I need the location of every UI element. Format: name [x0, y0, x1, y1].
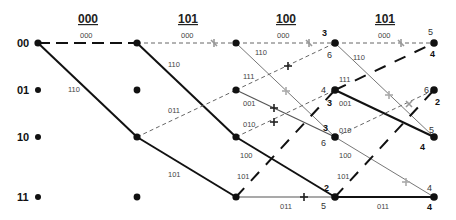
metric: 4	[321, 85, 326, 95]
node	[430, 193, 438, 201]
branch-label: 100	[339, 151, 352, 160]
metric: 6	[321, 138, 326, 148]
metric: 2	[324, 183, 329, 193]
node	[134, 194, 141, 201]
branch-label: 110	[168, 60, 180, 69]
branch-label: 101	[168, 170, 181, 179]
node	[35, 194, 41, 200]
node	[133, 133, 140, 140]
node	[430, 39, 438, 47]
node	[232, 133, 239, 140]
node	[232, 86, 239, 93]
cross-icon	[402, 178, 410, 186]
node	[331, 39, 339, 47]
metric: 4	[420, 142, 425, 152]
cross-icon	[300, 193, 308, 201]
cross-icon	[406, 101, 412, 107]
node	[35, 87, 41, 93]
branch-label: 111	[243, 72, 254, 81]
branch-label: 110	[353, 53, 365, 62]
node	[34, 39, 41, 46]
cross-icon	[270, 104, 278, 112]
branch-label: 000	[181, 31, 194, 40]
branch-label: 010	[243, 120, 256, 129]
branch-label: 011	[377, 202, 389, 211]
node	[133, 39, 140, 46]
branch-label: 110	[68, 85, 80, 94]
header-col1: 000	[78, 12, 98, 26]
metric: 3	[327, 98, 332, 108]
state-label-11: 11	[17, 191, 29, 203]
node	[134, 87, 141, 94]
cross-icon	[270, 118, 278, 126]
path-metrics: 3 6 4 3 3 6 2 5 5 4 6 2 5 4 4 4	[321, 27, 440, 212]
branch-label: 101	[337, 172, 350, 181]
node	[430, 133, 438, 141]
branch-label: 101	[237, 172, 250, 181]
metric: 4	[427, 183, 432, 193]
node	[35, 134, 41, 140]
branch-s1-00-10	[38, 43, 137, 137]
branch-label: 000	[277, 31, 290, 40]
branch-label: 011	[168, 106, 180, 115]
metric: 5	[321, 201, 326, 211]
branch-label: 001	[339, 99, 352, 108]
state-label-01: 01	[17, 84, 29, 96]
header-col3: 100	[276, 12, 296, 26]
node	[232, 193, 239, 200]
branch-label: 111	[339, 75, 350, 84]
metric: 6	[327, 50, 332, 60]
state-label-00: 00	[17, 37, 29, 49]
branch-s2-10-01	[137, 90, 236, 137]
header-col4: 101	[375, 12, 395, 26]
branch-s4-00-10	[335, 43, 434, 137]
branch-labels: 000 110 000 110 011 101 000 110 111 001 …	[68, 31, 391, 211]
branch-s2-00-10	[137, 43, 236, 137]
branch-s2-10-11	[137, 137, 236, 197]
branch-label: 110	[255, 48, 267, 57]
received-sequence-headers: 000 101 100 101	[78, 12, 395, 26]
node	[331, 86, 339, 94]
metric: 5	[428, 27, 433, 37]
metric: 4	[430, 49, 435, 59]
metric: 2	[435, 97, 440, 107]
node	[232, 39, 239, 46]
branches	[38, 43, 434, 197]
node	[331, 133, 339, 141]
branch-label: 100	[240, 151, 253, 160]
branch-label: 000	[378, 31, 391, 40]
metric: 6	[424, 85, 429, 95]
node	[430, 86, 438, 94]
metric: 4	[427, 202, 432, 212]
header-col2: 101	[178, 12, 198, 26]
node	[331, 193, 339, 201]
branch-label: 011	[280, 202, 292, 211]
branch-label: 001	[243, 99, 256, 108]
state-labels: 00 01 10 11	[17, 37, 29, 203]
branch-label: 000	[80, 31, 93, 40]
cross-icon	[284, 62, 292, 70]
trellis-diagram: 000 101 100 101 00 01 10 11	[0, 0, 456, 220]
state-label-10: 10	[17, 131, 29, 143]
branch-label: 010	[339, 126, 352, 135]
metric: 3	[322, 28, 327, 38]
metric: 3	[323, 123, 328, 133]
